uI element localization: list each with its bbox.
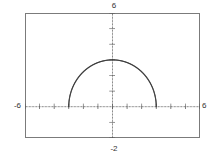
y-axis-min-label: -2: [105, 144, 123, 153]
axes-group: [25, 13, 200, 138]
graph-container: 6 -2 -6 6: [0, 0, 218, 159]
y-axis-max-label: 6: [105, 1, 123, 10]
plot-canvas: [25, 13, 200, 138]
x-axis-max-label: 6: [202, 101, 216, 110]
x-axis-min-label: -6: [4, 101, 21, 110]
